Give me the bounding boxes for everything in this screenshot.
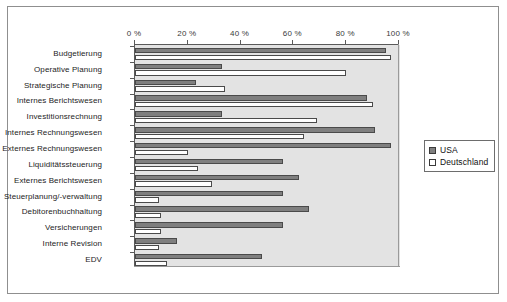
y-axis-tick-mark — [130, 46, 134, 47]
y-axis-tick-mark — [130, 205, 134, 206]
bar-usa — [135, 64, 222, 69]
y-axis-tick-mark — [130, 236, 134, 237]
bar-deutschland — [135, 102, 373, 107]
chart-legend: USA Deutschland — [424, 140, 495, 172]
legend-item-deutschland: Deutschland — [429, 156, 488, 168]
bar-usa — [135, 127, 375, 132]
category-label: EDV — [85, 255, 102, 264]
y-axis-tick-mark — [130, 189, 134, 190]
bar-deutschland — [135, 134, 304, 139]
bar-deutschland — [135, 150, 188, 155]
category-row: Debitorenbuchhaltung — [8, 205, 500, 221]
bar-deutschland — [135, 86, 225, 91]
category-row: Versicherungen — [8, 220, 500, 236]
category-row: Operative Planung — [8, 62, 500, 78]
x-axis-tick-mark — [398, 40, 399, 44]
category-label: Steuerplanung/-verwaltung — [4, 192, 102, 201]
y-axis-tick-mark — [130, 157, 134, 158]
bar-usa — [135, 222, 283, 227]
x-axis-tick-label: 80 % — [336, 29, 355, 38]
x-axis-tick-label: 60 % — [283, 29, 302, 38]
category-label: Interne Revision — [43, 239, 102, 248]
category-label: Investitionsrechnung — [27, 112, 102, 121]
bar-usa — [135, 143, 391, 148]
category-label: Versicherungen — [45, 223, 102, 232]
bar-usa — [135, 111, 222, 116]
bar-deutschland — [135, 261, 167, 266]
x-axis-tick-label: 100 % — [386, 29, 410, 38]
bar-deutschland — [135, 229, 161, 234]
category-row: Externes Berichtswesen — [8, 173, 500, 189]
y-axis-tick-mark — [130, 125, 134, 126]
chart-frame: 0 %20 %40 %60 %80 %100 % BudgetierungOpe… — [7, 6, 499, 294]
bar-usa — [135, 175, 299, 180]
filled-gray-square-icon — [429, 147, 436, 154]
x-axis-tick-mark — [187, 40, 188, 44]
x-axis-tick-mark — [240, 40, 241, 44]
y-axis-tick-mark — [130, 252, 134, 253]
bar-deutschland — [135, 213, 161, 218]
bar-usa — [135, 48, 386, 53]
y-axis-tick-mark — [130, 94, 134, 95]
category-row: Internes Rechnungswesen — [8, 125, 500, 141]
bar-usa — [135, 191, 283, 196]
y-axis-tick-mark — [130, 109, 134, 110]
bar-deutschland — [135, 197, 159, 202]
category-label: Operative Planung — [34, 65, 102, 74]
x-axis-tick-labels: 0 %20 %40 %60 %80 %100 % — [8, 29, 500, 43]
y-axis-tick-mark — [130, 141, 134, 142]
x-axis-tick-mark — [345, 40, 346, 44]
bar-deutschland — [135, 55, 391, 60]
category-label: Debitorenbuchhaltung — [22, 207, 102, 216]
category-label: Internes Rechnungswesen — [5, 128, 102, 137]
x-axis-tick-label: 0 % — [127, 29, 141, 38]
category-row: Steuerplanung/-verwaltung — [8, 189, 500, 205]
category-row: Budgetierung — [8, 46, 500, 62]
y-axis-tick-mark — [130, 62, 134, 63]
category-row: Investitionsrechnung — [8, 109, 500, 125]
bar-usa — [135, 159, 283, 164]
category-label: Liquiditätssteuerung — [28, 160, 102, 169]
legend-item-usa: USA — [429, 144, 488, 156]
legend-label-usa: USA — [440, 145, 458, 155]
bar-usa — [135, 95, 367, 100]
bar-deutschland — [135, 245, 159, 250]
bar-deutschland — [135, 70, 346, 75]
category-label: Budgetierung — [53, 49, 102, 58]
y-axis-tick-mark — [130, 220, 134, 221]
y-axis-tick-mark — [130, 173, 134, 174]
bar-deutschland — [135, 166, 198, 171]
category-row: Internes Berichtswesen — [8, 94, 500, 110]
category-label: Externes Rechnungswesen — [2, 144, 102, 153]
bar-deutschland — [135, 118, 317, 123]
category-label: Strategische Planung — [24, 81, 102, 90]
bar-usa — [135, 254, 262, 259]
y-axis-tick-mark — [130, 78, 134, 79]
category-row: EDV — [8, 252, 500, 268]
x-axis-tick-label: 40 % — [230, 29, 249, 38]
x-axis-tick-label: 20 % — [177, 29, 196, 38]
category-row: Strategische Planung — [8, 78, 500, 94]
bar-deutschland — [135, 181, 212, 186]
legend-label-deutschland: Deutschland — [440, 157, 488, 167]
bar-usa — [135, 206, 309, 211]
empty-white-square-icon — [429, 159, 436, 166]
bar-usa — [135, 238, 177, 243]
x-axis-tick-mark — [292, 40, 293, 44]
bar-usa — [135, 80, 196, 85]
category-label: Internes Berichtswesen — [17, 96, 102, 105]
category-label: Externes Berichtswesen — [14, 176, 102, 185]
category-row: Interne Revision — [8, 236, 500, 252]
x-axis-tick-mark — [134, 40, 135, 44]
